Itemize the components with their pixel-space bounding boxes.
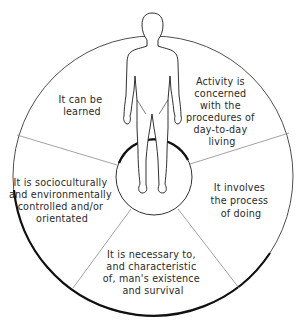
segment-learned-text: It can be learned xyxy=(59,94,106,117)
activity-wheel-diagram: It can be learned Activity is concerned … xyxy=(0,0,305,327)
